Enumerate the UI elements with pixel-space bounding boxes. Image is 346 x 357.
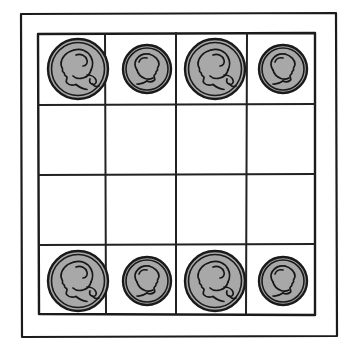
penny-coin-icon[interactable] — [123, 257, 171, 305]
quarter-coin-icon[interactable] — [48, 251, 108, 311]
coin-grid-figure — [0, 0, 346, 357]
quarter-coin-icon[interactable] — [185, 251, 245, 311]
quarter-coin-icon[interactable] — [48, 39, 108, 99]
grid-cell-r4c4[interactable] — [259, 257, 307, 305]
grid-cell-r1c3[interactable] — [185, 39, 245, 99]
penny-coin-icon[interactable] — [259, 257, 307, 305]
grid-cell-r1c4[interactable] — [259, 45, 307, 93]
grid-cell-r1c1[interactable] — [48, 39, 108, 99]
grid-line-horizontal-1 — [39, 104, 315, 105]
grid-cell-r4c3[interactable] — [185, 251, 245, 311]
penny-coin-icon[interactable] — [259, 45, 307, 93]
quarter-coin-icon[interactable] — [185, 39, 245, 99]
grid-line-horizontal-3 — [39, 244, 315, 245]
grid-cell-r4c1[interactable] — [48, 251, 108, 311]
penny-coin-icon[interactable] — [123, 45, 171, 93]
grid-cell-r4c2[interactable] — [123, 257, 171, 305]
coin-grid-canvas — [0, 0, 346, 357]
grid-cell-r1c2[interactable] — [123, 45, 171, 93]
grid-line-horizontal-2 — [39, 174, 315, 175]
